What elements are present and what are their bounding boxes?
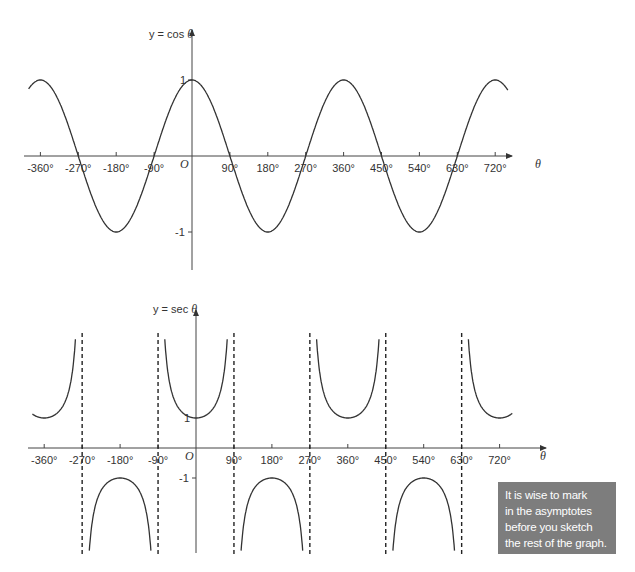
sec-xtick-label: 360°: [336, 454, 359, 466]
sec-ytick-neg1: -1: [179, 472, 189, 484]
sec-chart: -360°-270°-180°-90°90°180°270°360°450°54…: [28, 302, 546, 556]
tip-note-box: It is wise to mark in the asymptotes bef…: [498, 482, 616, 554]
sec-xtick-label: 180°: [261, 454, 284, 466]
cos-xtick-label: -90°: [144, 162, 164, 174]
cos-xtick-label: -270°: [65, 162, 91, 174]
cos-xtick-label: 450°: [370, 162, 393, 174]
sec-xtick-label: 720°: [488, 454, 511, 466]
cos-xtick-label: -180°: [103, 162, 129, 174]
cos-xtick-label: 540°: [408, 162, 431, 174]
cos-xtick-label: 270°: [294, 162, 317, 174]
cos-xtick-label: 180°: [256, 162, 279, 174]
sec-x-label: θ: [540, 449, 546, 463]
cos-xtick-label: 360°: [332, 162, 355, 174]
sec-curve-branch: [32, 339, 75, 418]
sec-curve-branch: [468, 339, 512, 418]
sec-xtick-label: -360°: [31, 454, 57, 466]
cos-chart: -360°-270°-180°-90°90°180°270°360°450°54…: [24, 27, 541, 270]
tip-line-3: before you sketch: [505, 519, 616, 535]
sec-xtick-label: -180°: [107, 454, 133, 466]
sec-y-label: y = sec θ: [153, 302, 197, 316]
cos-x-label: θ: [535, 157, 541, 171]
sec-curve-branch: [89, 478, 151, 551]
sec-xtick-label: 540°: [412, 454, 435, 466]
cos-ytick-neg1: -1: [175, 226, 185, 238]
cos-xtick-label: 630°: [446, 162, 469, 174]
cos-y-label: y = cos θ: [149, 27, 193, 41]
tip-line-2: in the asymptotes: [505, 503, 616, 519]
sec-origin-label: O: [185, 449, 194, 463]
cos-origin-label: O: [180, 157, 189, 171]
cos-xtick-label: 720°: [484, 162, 507, 174]
sec-curve-branch: [241, 478, 303, 551]
sec-curve-branch: [317, 339, 379, 418]
tip-line-1: It is wise to mark: [505, 487, 616, 503]
cos-xtick-label: -360°: [27, 162, 53, 174]
tip-line-4: the rest of the graph.: [505, 535, 616, 551]
sec-curve-branch: [393, 478, 455, 551]
cos-ytick-1: 1: [180, 74, 186, 86]
